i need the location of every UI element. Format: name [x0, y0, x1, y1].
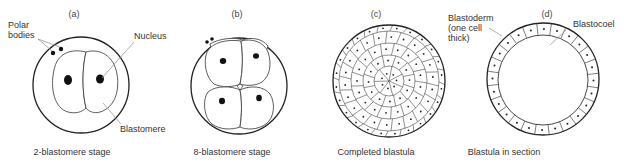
cell-nucleus [345, 72, 347, 74]
cell-wall [432, 107, 436, 112]
cell-wall [510, 34, 517, 43]
cell-nucleus [530, 29, 532, 31]
cell-wall [382, 96, 386, 106]
cell-nucleus [335, 86, 337, 88]
cell-nucleus [492, 78, 494, 80]
cell-nucleus [374, 51, 376, 53]
caption-a: 2-blastomere stage [33, 147, 110, 157]
cell-nucleus [362, 116, 364, 118]
cell-wall [352, 39, 354, 45]
cell-nucleus [499, 52, 501, 54]
cell-nucleus [409, 79, 411, 81]
panel-c: (c) Completed blastula [333, 9, 445, 157]
cell-nucleus [358, 92, 360, 94]
cell-nucleus [364, 59, 366, 61]
cell-wall [521, 121, 525, 131]
caption-b: 8-blastomere stage [193, 147, 270, 157]
cell-nucleus [381, 77, 383, 79]
cell-nucleus [591, 92, 593, 94]
cell-nucleus [371, 91, 373, 93]
cell-wall [408, 99, 416, 108]
cell-wall [371, 63, 378, 71]
cell-nucleus [420, 86, 422, 88]
cell-nucleus [357, 37, 359, 39]
blastomere-lower-left [205, 87, 242, 129]
cell-nucleus [374, 109, 376, 111]
blastocoel-leader [550, 30, 566, 45]
cell-nucleus [441, 74, 443, 76]
blastoderm-outer [487, 23, 599, 135]
nucleus-right [96, 75, 104, 84]
blastoderm-label-line2: (one cell [448, 23, 482, 33]
cell-nucleus [493, 65, 495, 67]
cell-wall [425, 94, 435, 100]
cell-wall [401, 48, 408, 58]
cell-nucleus [398, 123, 400, 125]
cell-wall [389, 74, 402, 81]
panel-d-label: (d) [542, 9, 553, 19]
cell-nucleus [356, 80, 358, 82]
cell-wall [389, 81, 403, 87]
cell-wall [508, 115, 515, 124]
cell-wall [578, 108, 587, 115]
cell-nucleus [430, 113, 432, 115]
cell-nucleus [392, 74, 394, 76]
cell-wall [390, 25, 393, 31]
cell-nucleus [403, 39, 405, 41]
cell-wall [559, 121, 563, 131]
cell-nucleus [432, 76, 434, 78]
cell-wall [523, 27, 527, 37]
panel-a-label: (a) [69, 9, 80, 19]
cell-wall [571, 36, 578, 45]
cell-wall [550, 24, 552, 35]
cell-nucleus [427, 100, 429, 102]
cell-wall [587, 86, 598, 88]
cell-nucleus [397, 111, 399, 113]
cell-wall [352, 72, 363, 76]
blastoderm-label-line1: Blastoderm [448, 13, 494, 23]
caption-d: Blastula in section [468, 147, 541, 157]
cell-nucleus [415, 63, 417, 65]
cell-nucleus [355, 122, 357, 124]
cell-wall [339, 76, 351, 79]
cell-nucleus [498, 103, 500, 105]
cell-nucleus [407, 55, 409, 57]
nucleus-ur [253, 53, 259, 59]
cell-wall [360, 40, 365, 51]
cell-wall [408, 57, 418, 64]
cell-nucleus [420, 123, 422, 125]
nucleus-ll [219, 98, 225, 104]
cell-nucleus [554, 128, 556, 130]
cell-nucleus [387, 88, 389, 90]
cell-wall [399, 63, 407, 70]
cell-wall [437, 95, 442, 99]
cell-wall [333, 77, 339, 80]
cell-nucleus [423, 53, 425, 55]
cell-nucleus [415, 97, 417, 99]
polar-body-b2 [210, 37, 214, 41]
cell-nucleus [577, 115, 579, 117]
cell-nucleus [394, 133, 396, 135]
polar-bodies-leader-1 [38, 39, 52, 51]
cell-nucleus [398, 62, 400, 64]
cell-wall [425, 44, 431, 46]
blastula-cells [333, 25, 445, 137]
cell-nucleus [368, 81, 370, 83]
cell-wall [336, 63, 341, 67]
cell-nucleus [377, 63, 379, 65]
cell-wall [347, 116, 353, 118]
cell-wall [488, 71, 499, 73]
cell-wall [585, 59, 595, 63]
polar-bodies-label-line1: Polar [8, 20, 29, 30]
cell-wall [588, 73, 599, 74]
cell-wall [413, 90, 423, 96]
cell-wall [364, 115, 372, 124]
cell-wall [392, 56, 396, 66]
blastoderm-label-line3: thick) [448, 33, 470, 43]
cell-nucleus [420, 74, 422, 76]
cell-nucleus [408, 129, 410, 131]
cell-wall [415, 47, 425, 54]
cell-wall [535, 124, 537, 135]
polar-bodies-label-line2: bodies [8, 30, 35, 40]
cell-wall [391, 107, 392, 119]
